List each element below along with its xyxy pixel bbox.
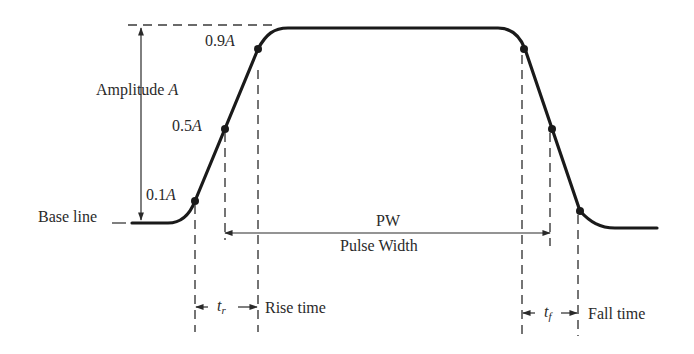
point-fall-01 <box>576 207 584 215</box>
tr-symbol: tr <box>217 297 226 316</box>
point-rise-09 <box>254 45 262 53</box>
pulse-waveform <box>132 28 657 228</box>
pulse-width-label: Pulse Width <box>340 237 418 254</box>
point-fall-09 <box>520 45 528 53</box>
point-rise-01 <box>191 197 199 205</box>
amplitude-label: Amplitude A <box>96 81 178 99</box>
baseline-label: Base line <box>38 208 97 225</box>
point-rise-05 <box>221 125 229 133</box>
rise-time-label: Rise time <box>265 299 326 316</box>
level-09-label: 0.9A <box>205 32 235 49</box>
pw-label: PW <box>376 212 401 229</box>
tf-symbol: tf <box>544 303 553 322</box>
fall-time-label: Fall time <box>588 305 645 322</box>
pulse-diagram: Amplitude A 0.9A 0.5A 0.1A Base line PW … <box>0 0 694 354</box>
point-fall-05 <box>548 125 556 133</box>
level-01-label: 0.1A <box>146 186 176 203</box>
level-05-label: 0.5A <box>172 117 202 134</box>
